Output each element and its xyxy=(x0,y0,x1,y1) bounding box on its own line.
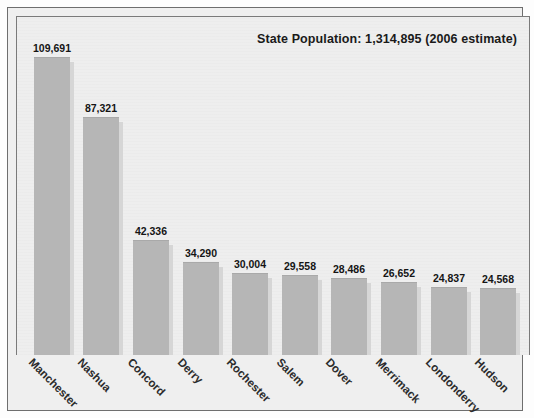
bar-nashua: 87,321 xyxy=(83,117,119,355)
bar-rect xyxy=(331,278,367,355)
bar-value-label: 24,568 xyxy=(482,273,514,285)
bar-value-label: 42,336 xyxy=(135,225,167,237)
bar-rect xyxy=(381,282,417,355)
bar-value-label: 24,837 xyxy=(433,272,465,284)
bar-salem: 29,558 xyxy=(282,275,318,355)
x-tick-rochester: Rochester xyxy=(225,356,273,404)
bar-dover: 28,486 xyxy=(331,278,367,355)
x-tick-nashua: Nashua xyxy=(76,356,114,394)
x-tick-salem: Salem xyxy=(275,356,307,388)
bar-value-label: 87,321 xyxy=(85,102,117,114)
bar-rect xyxy=(34,57,70,355)
bar-value-label: 29,558 xyxy=(284,260,316,272)
x-tick-derry: Derry xyxy=(176,356,206,386)
bars-layer: 109,69187,32142,33634,29030,00429,55828,… xyxy=(17,17,529,355)
bar-londonderry: 24,837 xyxy=(431,287,467,355)
bar-value-label: 30,004 xyxy=(234,258,266,270)
x-tick-hudson: Hudson xyxy=(473,356,512,395)
bar-value-label: 34,290 xyxy=(185,247,217,259)
figure-frame: State Population: 1,314,895 (2006 estima… xyxy=(7,7,523,411)
bar-value-label: 26,652 xyxy=(383,267,415,279)
bar-rect xyxy=(431,287,467,355)
bar-merrimack: 26,652 xyxy=(381,282,417,355)
bar-rect xyxy=(183,262,219,355)
bar-hudson: 24,568 xyxy=(480,288,516,355)
bar-concord: 42,336 xyxy=(133,240,169,355)
bar-rect xyxy=(480,288,516,355)
x-tick-concord: Concord xyxy=(126,356,168,398)
x-tick-merrimack: Merrimack xyxy=(374,356,423,405)
x-axis-tick-labels: ManchesterNashuaConcordDerryRochesterSal… xyxy=(16,356,530,418)
plot-area: State Population: 1,314,895 (2006 estima… xyxy=(16,16,530,355)
bar-rochester: 30,004 xyxy=(232,273,268,355)
x-tick-dover: Dover xyxy=(324,356,356,388)
population-bar-chart-figure: State Population: 1,314,895 (2006 estima… xyxy=(0,0,534,418)
bar-derry: 34,290 xyxy=(183,262,219,355)
bar-rect xyxy=(282,275,318,355)
bar-rect xyxy=(133,240,169,355)
bar-value-label: 28,486 xyxy=(333,263,365,275)
bar-rect xyxy=(83,117,119,355)
bar-value-label: 109,691 xyxy=(33,42,71,54)
bar-manchester: 109,691 xyxy=(34,57,70,355)
x-tick-manchester: Manchester xyxy=(27,356,81,410)
bar-rect xyxy=(232,273,268,355)
